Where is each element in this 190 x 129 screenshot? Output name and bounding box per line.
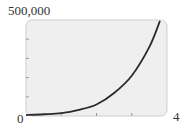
chart-plot <box>0 0 190 129</box>
plot-area <box>26 20 167 116</box>
y-axis-max-label: 500,000 <box>8 4 50 17</box>
x-axis-max-label: 4 <box>173 110 180 123</box>
x-axis-min-label: 0 <box>17 112 24 125</box>
